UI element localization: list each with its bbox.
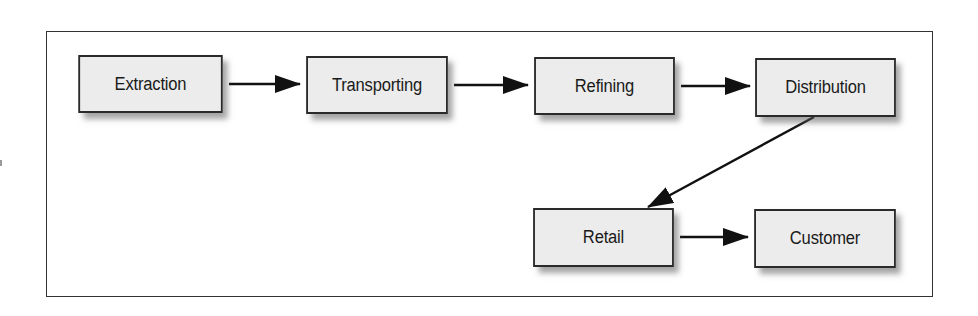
scan-artifact [0,160,2,166]
node-customer: Customer [754,209,896,268]
node-label: Extraction [115,74,187,95]
node-retail: Retail [533,208,674,267]
node-extraction: Extraction [78,55,222,113]
node-label: Refining [575,76,634,97]
node-label: Customer [790,228,860,249]
node-label: Transporting [332,75,422,96]
node-distribution: Distribution [755,58,896,117]
node-label: Retail [583,227,624,248]
node-refining: Refining [534,57,675,115]
node-transporting: Transporting [306,56,448,114]
node-label: Distribution [785,77,866,98]
